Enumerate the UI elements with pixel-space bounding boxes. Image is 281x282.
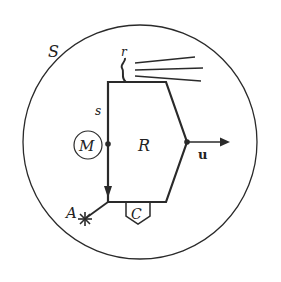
- regulator-label: R: [137, 136, 150, 155]
- sensor-node-dot: [105, 141, 111, 147]
- receptor-label: r: [121, 45, 128, 59]
- diagram-canvas: S r s M R u A C: [0, 0, 281, 282]
- output-label: u: [198, 147, 207, 162]
- right-arrowhead-icon: [220, 138, 230, 147]
- memory-label: M: [78, 137, 95, 155]
- receptor-squiggle: [122, 58, 126, 82]
- system-diagram: S r s M R u A C: [0, 0, 281, 282]
- input-rays: [135, 57, 203, 81]
- actuator-star-icon: [78, 212, 92, 226]
- actuator-label: A: [64, 204, 77, 222]
- controller-label: C: [131, 206, 142, 222]
- system-label: S: [48, 42, 59, 61]
- down-arrowhead-icon: [104, 186, 112, 198]
- sensor-channel-label: s: [95, 104, 101, 118]
